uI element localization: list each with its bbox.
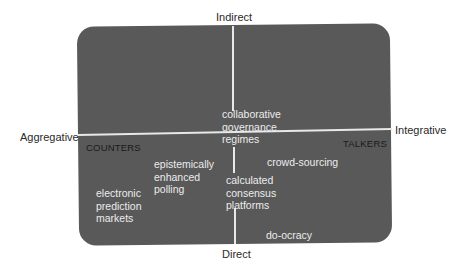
- item-collaborative-governance-regimes: collaborative governance regimes: [222, 108, 281, 146]
- axis-label-direct: Direct: [222, 248, 251, 260]
- item-do-ocracy: do-ocracy: [266, 229, 312, 242]
- vertical-axis-line-lower: [234, 208, 236, 244]
- item-epistemically-enhanced-polling: epistemically enhanced polling: [154, 158, 214, 196]
- quadrant-label-counters: COUNTERS: [86, 142, 141, 153]
- vertical-axis-line-upper: [232, 26, 234, 111]
- quadrant-label-talkers: TALKERS: [343, 138, 387, 149]
- vertical-axis-line-middle: [233, 147, 235, 173]
- axis-label-aggregative: Aggregative: [20, 131, 79, 143]
- axis-label-indirect: Indirect: [216, 11, 252, 23]
- item-crowd-sourcing: crowd-sourcing: [267, 156, 338, 169]
- item-electronic-prediction-markets: electronic prediction markets: [96, 187, 142, 225]
- item-calculated-consensus-platforms: calculated consensus platforms: [226, 174, 276, 212]
- axis-label-integrative: Integrative: [395, 124, 446, 136]
